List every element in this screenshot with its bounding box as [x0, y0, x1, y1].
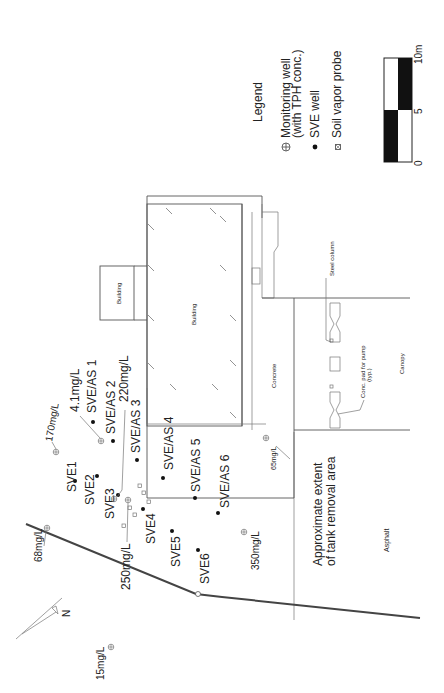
- sve-as-well-marker: [161, 476, 165, 480]
- monitoring-well-marker: [53, 449, 59, 455]
- sve-as-well-marker: [216, 511, 220, 515]
- scale-tick-10: 10m: [413, 45, 424, 64]
- sve-as-well-marker: [193, 496, 197, 500]
- road-edge: [26, 524, 420, 618]
- sve-as-well-marker: [135, 458, 139, 462]
- legend-sve-well-label: SVE well: [308, 90, 322, 138]
- soil-vapor-probe-marker: [138, 484, 142, 488]
- pump-pad-sublabel: (typ.): [366, 368, 372, 382]
- sve-as-well-label: SVE/AS 2: [104, 380, 118, 434]
- sve-well-label: SVE6: [198, 553, 212, 584]
- monitoring-well-marker: [108, 644, 114, 650]
- sve-well-marker: [170, 529, 174, 533]
- main-building: Building: [147, 196, 410, 620]
- sve-as-well-label: SVE/AS 4: [162, 416, 176, 470]
- sve-well-label: SVE2: [83, 474, 97, 505]
- monitoring-well-marker: [111, 496, 117, 502]
- sve-as-well-label: SVE/AS 3: [129, 399, 143, 453]
- small-building: Building: [100, 266, 147, 320]
- monitoring-well-conc: 220mg/L: [117, 355, 131, 402]
- steel-column-icon: [330, 385, 333, 388]
- monitoring-well-conc: 68mg/L: [33, 528, 44, 562]
- monitoring-well-conc: 250mg/L: [119, 543, 133, 590]
- sve-as-well-label: SVE/AS 1: [85, 359, 99, 413]
- scale-bar: 0 5 10m: [384, 45, 424, 166]
- monitoring-well-conc: 15mg/L: [95, 646, 106, 680]
- legend-title: Legend: [251, 82, 265, 122]
- sve-well-label: SVE5: [169, 536, 183, 567]
- concrete-label: Concrete: [271, 363, 277, 388]
- monitoring-well-conc: 4.1mg/L: [68, 368, 82, 412]
- legend: Legend Monitoring well (with TPH conc.) …: [251, 50, 344, 151]
- pump-pad-icon: [330, 303, 340, 342]
- monitoring-well-marker: [241, 529, 247, 535]
- sve-as-well-marker: [91, 420, 95, 424]
- monitoring-well-icon: [282, 143, 290, 151]
- monitoring-well-marker: [125, 497, 131, 503]
- legend-soil-vapor-probe-label: Soil vapor probe: [330, 50, 344, 138]
- north-arrow-label: N: [61, 610, 72, 617]
- sve-well-marker: [196, 548, 200, 552]
- site-map: Legend Monitoring well (with TPH conc.) …: [0, 0, 444, 693]
- main-building-label: Building: [191, 304, 197, 325]
- sve-well-icon: [313, 145, 318, 150]
- road-point-marker: [196, 592, 201, 597]
- sve-well-label: SVE4: [144, 513, 158, 544]
- legend-monitoring-well-sublabel: (with TPH conc.): [290, 50, 304, 138]
- pump-pad-icon: [330, 392, 340, 428]
- monitoring-well-marker: [98, 438, 104, 444]
- monitoring-well-marker: [44, 525, 50, 531]
- sve-well-marker: [141, 507, 145, 511]
- sve-as-well-label: SVE/AS 5: [189, 438, 203, 492]
- asphalt-label: Asphalt: [383, 529, 391, 552]
- sve-as-well-label: SVE/AS 6: [218, 454, 232, 508]
- soil-vapor-probe-marker: [147, 500, 151, 504]
- monitoring-well-marker: [263, 435, 269, 441]
- tank-removal-label: Approximate extent: [311, 462, 325, 566]
- canopy-area: Concrete Canopy Steel column Conc. pad f…: [271, 241, 405, 428]
- monitoring-well-conc: 350mg/L: [250, 531, 261, 570]
- soil-vapor-probe-marker: [122, 524, 126, 528]
- north-arrow: N: [16, 598, 72, 639]
- steel-column-label: Steel column: [329, 241, 335, 276]
- small-building-label: Building: [116, 283, 122, 304]
- scale-tick-5: 5: [413, 108, 424, 114]
- soil-vapor-probe-icon: [336, 145, 341, 150]
- sve-well-label: SVE1: [65, 461, 79, 492]
- soil-vapor-probe-marker: [128, 506, 132, 510]
- sve-as-well-marker: [111, 439, 115, 443]
- monitoring-well-conc: 170mg/L: [43, 402, 61, 443]
- soil-vapor-probe-marker: [133, 513, 137, 517]
- sve-well-label: SVE3: [103, 488, 117, 519]
- canopy-label: Canopy: [399, 353, 405, 374]
- soil-vapor-probe-marker: [142, 491, 146, 495]
- tank-removal-sublabel: of tank removal area: [324, 456, 338, 566]
- dispenser-island-icon: [330, 357, 340, 371]
- monitoring-well-conc: 65mg/L: [270, 447, 278, 470]
- scale-tick-0: 0: [413, 160, 424, 166]
